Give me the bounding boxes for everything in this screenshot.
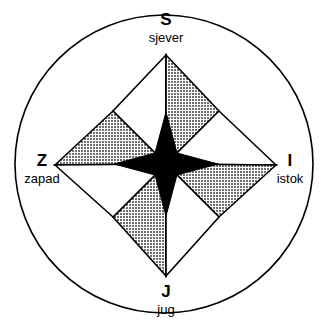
direction-abbr-north: S xyxy=(118,11,214,28)
direction-name-west: zapad xyxy=(8,172,76,185)
compass-rose-figure: S sjever J jug Z zapad I istok xyxy=(0,0,330,331)
direction-abbr-west: Z xyxy=(8,152,76,169)
direction-abbr-east: I xyxy=(256,152,324,169)
direction-label-east: I istok xyxy=(256,152,324,185)
direction-abbr-south: J xyxy=(118,283,214,300)
direction-name-south: jug xyxy=(118,303,214,316)
direction-label-south: J jug xyxy=(118,283,214,316)
direction-label-west: Z zapad xyxy=(8,152,76,185)
direction-name-east: istok xyxy=(256,172,324,185)
direction-label-north: S sjever xyxy=(118,11,214,44)
direction-name-north: sjever xyxy=(118,31,214,44)
